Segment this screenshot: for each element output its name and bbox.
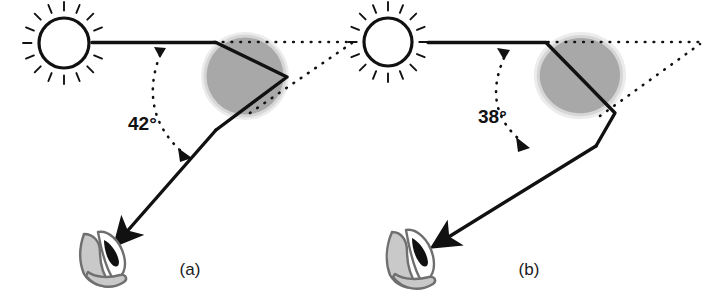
- angle-label: 38°: [478, 106, 507, 127]
- panel-caption-a: (a): [180, 260, 201, 279]
- panel-caption-b: (b): [519, 260, 540, 279]
- sun-disc: [39, 18, 89, 68]
- raindrop-body: [207, 38, 284, 115]
- angle-label: 42°: [128, 113, 157, 134]
- sun-disc: [364, 18, 412, 66]
- rainbow-angle-figure: 42° (a): [0, 0, 718, 307]
- figure-canvas: 42° (a): [0, 0, 718, 307]
